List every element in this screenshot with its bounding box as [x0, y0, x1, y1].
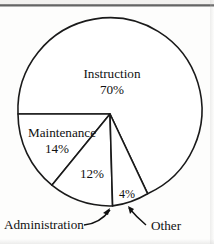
slice-label-other-percent: 4% [119, 187, 135, 201]
slice-label-instruction-name: Instruction [83, 66, 141, 81]
slice-label-instruction-percent: 70% [100, 82, 124, 97]
scan-artifact-right-edge [210, 0, 214, 244]
pie-chart-figure: Instruction 70% Maintenance 14% 12% 4% A… [0, 0, 214, 244]
slice-label-administration-percent: 12% [80, 166, 104, 181]
scan-artifact-top-line [0, 4, 214, 7]
pie-chart-canvas: Instruction 70% Maintenance 14% 12% 4% A… [0, 0, 214, 244]
callout-label-other: Other [151, 218, 182, 233]
callout-arrow-administration [103, 208, 110, 215]
callout-label-administration: Administration [4, 217, 84, 232]
slice-label-maintenance-name: Maintenance [28, 125, 96, 140]
slice-label-maintenance-percent: 14% [45, 141, 69, 156]
scan-artifact-bottom-edge [0, 239, 214, 244]
